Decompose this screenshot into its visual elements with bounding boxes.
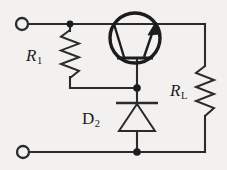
label-r1: R1 xyxy=(26,47,42,66)
label-rl-symbol: R xyxy=(170,81,180,100)
resistor-rl xyxy=(196,66,214,116)
label-rl-subscript: L xyxy=(180,90,187,101)
diode-anode-triangle xyxy=(119,104,155,131)
wire-r1-return xyxy=(70,77,137,88)
label-rl: RL xyxy=(170,82,187,101)
label-r1-symbol: R xyxy=(26,46,36,65)
transistor-q1 xyxy=(110,13,160,63)
resistor-r1 xyxy=(61,30,79,78)
node-top-r1 xyxy=(67,21,74,28)
circuit-diagram: R1 RL D2 xyxy=(0,0,227,170)
node-base xyxy=(133,84,141,92)
label-d2-symbol: D xyxy=(82,109,94,128)
terminal-top-left[interactable] xyxy=(16,18,28,30)
resistor-rl-zigzag xyxy=(196,66,214,116)
terminals xyxy=(16,18,29,158)
schematic-canvas xyxy=(0,0,227,170)
terminal-bottom-left[interactable] xyxy=(17,146,29,158)
resistor-r1-zigzag xyxy=(61,30,79,78)
label-d2-subscript: 2 xyxy=(94,118,100,129)
node-bottom xyxy=(133,148,141,156)
diode-d2 xyxy=(116,103,158,131)
label-r1-subscript: 1 xyxy=(36,55,42,66)
label-d2: D2 xyxy=(82,110,100,130)
